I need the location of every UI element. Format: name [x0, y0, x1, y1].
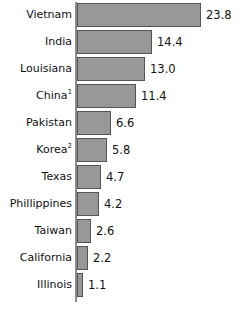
bar-row: Korea25.8 [0, 138, 246, 162]
bar-track: 4.2 [77, 192, 246, 216]
bar [77, 192, 99, 216]
bar-value-label: 2.2 [93, 246, 111, 270]
bar-track: 5.8 [77, 138, 246, 162]
category-label: Taiwan [0, 219, 72, 243]
category-label: Illinois [0, 273, 72, 297]
bar-track: 2.2 [77, 246, 246, 270]
bar [77, 138, 107, 162]
bar-value-label: 11.4 [141, 84, 167, 108]
category-label-text: Vietnam [26, 8, 72, 21]
category-label-text: Illinois [37, 278, 72, 291]
category-label: China1 [0, 84, 72, 108]
category-label-text: China [36, 89, 67, 102]
bar-track: 14.4 [77, 30, 246, 54]
category-label-text: Korea [36, 143, 67, 156]
bar-row: Taiwan2.6 [0, 219, 246, 243]
bar [77, 246, 88, 270]
category-label: India [0, 30, 72, 54]
category-label: Phillippines [0, 192, 72, 216]
bar-track: 2.6 [77, 219, 246, 243]
footnote-marker: 2 [68, 142, 72, 150]
category-label: Texas [0, 165, 72, 189]
bar-value-label: 4.2 [104, 192, 122, 216]
category-label-text: Pakistan [26, 116, 72, 129]
category-label: Louisiana [0, 57, 72, 81]
bar-track: 13.0 [77, 57, 246, 81]
bar-value-label: 23.8 [206, 3, 232, 27]
bar-value-label: 2.6 [96, 219, 114, 243]
category-label-text: Louisiana [20, 62, 72, 75]
bar-value-label: 14.4 [157, 30, 183, 54]
bar [77, 3, 201, 27]
bar-value-label: 6.6 [116, 111, 134, 135]
bar [77, 57, 145, 81]
category-label: California [0, 246, 72, 270]
bar-row: Vietnam23.8 [0, 3, 246, 27]
bar-row: Illinois1.1 [0, 273, 246, 297]
bar [77, 219, 91, 243]
bar [77, 30, 152, 54]
category-label: Vietnam [0, 3, 72, 27]
bar [77, 165, 101, 189]
bar-row: Pakistan6.6 [0, 111, 246, 135]
bar-value-label: 4.7 [106, 165, 124, 189]
category-label-text: Texas [42, 170, 72, 183]
bar [77, 273, 83, 297]
category-label-text: India [45, 35, 72, 48]
bar [77, 111, 111, 135]
bar-track: 6.6 [77, 111, 246, 135]
bar-value-label: 5.8 [112, 138, 130, 162]
bar-track: 23.8 [77, 3, 246, 27]
bar-row: India14.4 [0, 30, 246, 54]
category-label-text: Phillippines [10, 197, 72, 210]
category-label: Pakistan [0, 111, 72, 135]
category-label-text: California [20, 251, 72, 264]
bar-row: Texas4.7 [0, 165, 246, 189]
bar-value-label: 13.0 [150, 57, 176, 81]
bar-chart: Vietnam23.8India14.4Louisiana13.0China11… [0, 0, 246, 311]
bar [77, 84, 136, 108]
bar-rows: Vietnam23.8India14.4Louisiana13.0China11… [0, 3, 246, 300]
category-label-text: Taiwan [35, 224, 72, 237]
category-label: Korea2 [0, 138, 72, 162]
bar-row: Louisiana13.0 [0, 57, 246, 81]
bar-row: Phillippines4.2 [0, 192, 246, 216]
bar-track: 4.7 [77, 165, 246, 189]
bar-track: 11.4 [77, 84, 246, 108]
bar-row: California2.2 [0, 246, 246, 270]
bar-track: 1.1 [77, 273, 246, 297]
bar-row: China111.4 [0, 84, 246, 108]
bar-value-label: 1.1 [88, 273, 106, 297]
footnote-marker: 1 [68, 88, 72, 96]
